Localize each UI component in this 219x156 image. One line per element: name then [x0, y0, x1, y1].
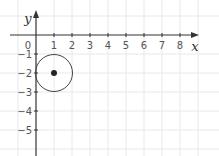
- y-tick-label: −1: [17, 49, 32, 60]
- x-tick-label: 2: [69, 40, 75, 51]
- x-axis: 0 1 2 3 4 5 6 7 8 x: [10, 32, 199, 54]
- y-axis-label: y: [23, 11, 32, 26]
- x-tick-label: 6: [141, 40, 147, 51]
- x-tick-label: 8: [177, 40, 183, 51]
- x-tick-label: 7: [159, 40, 165, 51]
- x-tick-label: 1: [51, 40, 57, 51]
- y-tick-label: −4: [17, 106, 32, 117]
- x-axis-label: x: [191, 39, 199, 54]
- x-tick-label: 4: [105, 40, 111, 51]
- x-tick-label: 3: [87, 40, 93, 51]
- y-tick-label: −3: [17, 87, 32, 98]
- y-axis-arrow-icon: [33, 10, 39, 18]
- center-point: [51, 70, 57, 76]
- y-tick-label: −5: [17, 125, 32, 136]
- x-tick-label: 5: [123, 40, 129, 51]
- y-axis: −1 −2 −3 −4 −5 y: [17, 10, 39, 156]
- grid: [0, 0, 219, 156]
- y-tick-label: −2: [17, 68, 32, 79]
- coordinate-plane: 0 1 2 3 4 5 6 7 8 x −1 −2 −3 −4 −5 y: [0, 0, 219, 156]
